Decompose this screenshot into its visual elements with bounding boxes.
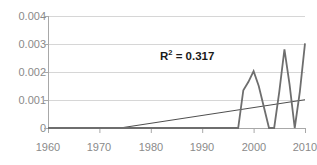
y-tickmarks	[44, 17, 48, 129]
gridlines	[48, 17, 305, 101]
chart-screenshot: 0.004 0.003 0.002 0.001 0 1960 1970 1980…	[0, 0, 317, 165]
plot-area	[0, 0, 317, 165]
data-series-line	[48, 43, 305, 128]
